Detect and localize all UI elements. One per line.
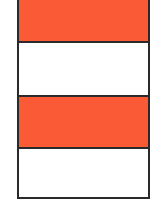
band-filled-1 (19, 0, 148, 41)
striped-column (17, 0, 150, 199)
band-filled-2 (19, 95, 148, 147)
band-empty-1 (19, 41, 148, 95)
band-empty-2 (19, 147, 148, 197)
